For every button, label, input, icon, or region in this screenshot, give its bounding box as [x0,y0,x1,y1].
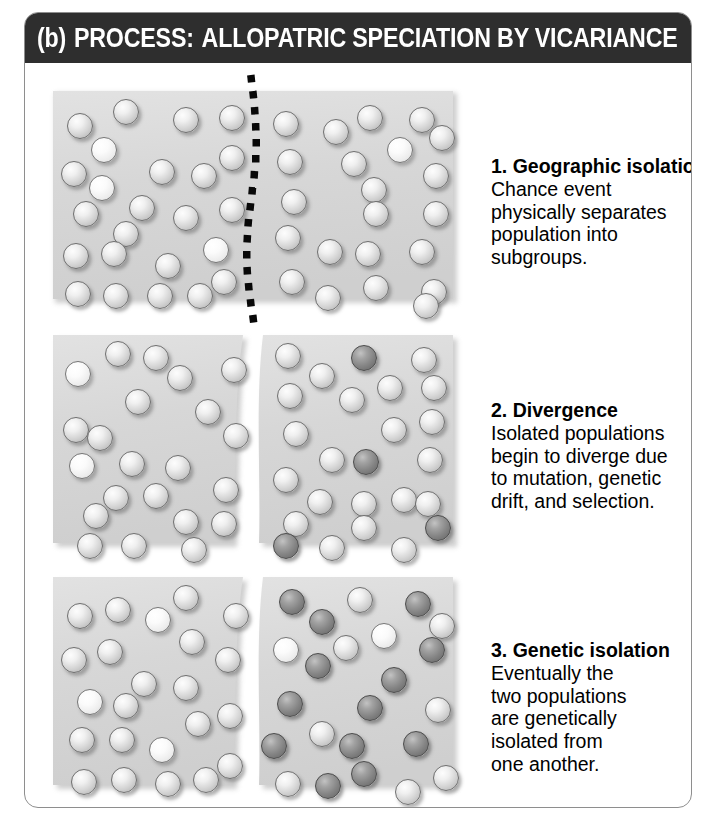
figure-label: (b) [37,23,66,53]
organism-sphere-light [105,597,131,623]
sphere-layer-stage-2 [51,333,471,555]
organism-sphere-light [173,585,199,611]
organism-sphere-light [273,467,299,493]
organism-sphere-light [97,639,123,665]
organism-sphere-light [341,151,367,177]
figure-header-bar: (b)PROCESS:ALLOPATRIC SPECIATION BY VICA… [25,13,691,63]
organism-sphere-pale [91,137,117,163]
organism-sphere-light [143,483,169,509]
organism-sphere-dark [309,609,335,635]
organism-sphere-light [181,537,207,563]
organism-sphere-light [419,409,445,435]
organism-sphere-light [323,119,349,145]
organism-sphere-light [221,357,247,383]
organism-sphere-light [179,629,205,655]
organism-sphere-light [275,225,301,251]
organism-sphere-light [155,771,181,797]
organism-sphere-light [119,451,145,477]
organism-sphere-light [333,635,359,661]
organism-sphere-light [61,161,87,187]
organism-sphere-light [363,201,389,227]
stage-2-illustration [51,333,471,555]
organism-sphere-light [173,205,199,231]
organism-sphere-light [101,241,127,267]
organism-sphere-light [61,647,87,673]
organism-sphere-light [173,675,199,701]
organism-sphere-pale [89,175,115,201]
organism-sphere-dark [353,449,379,475]
organism-sphere-light [307,489,333,515]
organism-sphere-light [83,503,109,529]
organism-sphere-light [67,113,93,139]
organism-sphere-light [125,389,151,415]
organism-sphere-dark [381,667,407,693]
organism-sphere-light [433,765,459,791]
organism-sphere-dark [273,533,299,559]
organism-sphere-light [113,99,139,125]
organism-sphere-light [65,281,91,307]
organism-sphere-light [309,721,335,747]
header-process-word: PROCESS: [74,23,194,53]
organism-sphere-light [109,727,135,753]
organism-sphere-light [63,417,89,443]
organism-sphere-light [381,417,407,443]
stage-1-illustration [51,89,471,311]
organism-sphere-pale [149,737,175,763]
organism-sphere-light [219,197,245,223]
stage-3-caption: 3. Genetic isolation Eventually the two … [491,639,692,776]
organism-sphere-light [149,159,175,185]
organism-sphere-light [409,239,435,265]
stage-2-caption: 2. Divergence Isolated populations begin… [491,399,692,513]
organism-sphere-dark [279,589,305,615]
organism-sphere-pale [273,637,299,663]
organism-sphere-light [429,613,455,639]
organism-sphere-light [277,149,303,175]
stage-3-caption-title: 3. Genetic isolation [491,639,692,662]
organism-sphere-light [131,671,157,697]
organism-sphere-light [155,253,181,279]
organism-sphere-dark [405,591,431,617]
organism-sphere-pale [203,237,229,263]
organism-sphere-light [193,767,219,793]
organism-sphere-light [219,145,245,171]
stage-3-caption-body: Eventually the two populations are genet… [491,662,692,776]
organism-sphere-light [273,111,299,137]
organism-sphere-light [357,105,383,131]
organism-sphere-light [223,423,249,449]
organism-sphere-light [111,767,137,793]
organism-sphere-light [185,711,211,737]
organism-sphere-light [361,177,387,203]
organism-sphere-light [391,487,417,513]
stage-3-illustration [51,575,471,797]
organism-sphere-light [113,693,139,719]
organism-sphere-light [73,201,99,227]
organism-sphere-light [217,703,243,729]
organism-sphere-light [377,375,403,401]
organism-sphere-light [283,421,309,447]
organism-sphere-dark [419,637,445,663]
stage-2-caption-title: 2. Divergence [491,399,692,422]
sphere-layer-stage-1 [51,89,471,311]
organism-sphere-light [223,603,249,629]
organism-sphere-light [87,425,113,451]
organism-sphere-light [281,189,307,215]
organism-sphere-light [423,163,449,189]
organism-sphere-light [173,107,199,133]
organism-sphere-pale [387,137,413,163]
organism-sphere-light [211,269,237,295]
organism-sphere-light [173,509,199,535]
organism-sphere-pale [69,453,95,479]
organism-sphere-light [275,343,301,369]
organism-sphere-light [391,537,417,563]
organism-sphere-light [351,515,377,541]
organism-sphere-light [67,603,93,629]
organism-sphere-light [315,285,341,311]
organism-sphere-pale [77,689,103,715]
stage-2-caption-body: Isolated populations begin to diverge du… [491,422,692,513]
organism-sphere-light [143,345,169,371]
figure-card: (b)PROCESS:ALLOPATRIC SPECIATION BY VICA… [24,12,692,808]
stage-1-caption-body: Chance event physically separates popula… [491,178,692,269]
organism-sphere-light [363,275,389,301]
organism-sphere-light [395,779,421,805]
organism-sphere-light [413,293,439,319]
